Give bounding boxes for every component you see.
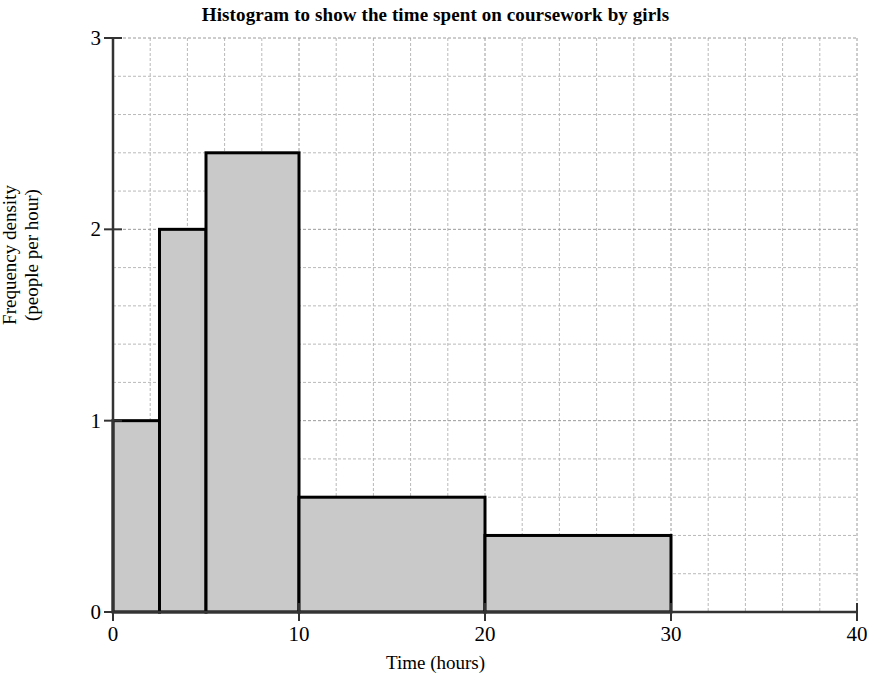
- y-tick-label: 0: [71, 600, 101, 625]
- x-tick-label: 20: [475, 622, 496, 647]
- histogram-bar: [113, 421, 160, 612]
- histogram-bar: [160, 229, 207, 612]
- x-tick-label: 40: [847, 622, 868, 647]
- x-tick-label: 30: [661, 622, 682, 647]
- histogram-bar: [299, 497, 485, 612]
- x-tick-label: 0: [108, 622, 119, 647]
- bars-group: [113, 153, 671, 612]
- y-tick-label: 2: [71, 217, 101, 242]
- histogram-bar: [206, 153, 299, 612]
- y-tick-label: 3: [71, 26, 101, 51]
- x-axis-title: Time (hours): [0, 652, 871, 674]
- histogram-bar: [485, 535, 671, 612]
- plot-area: [0, 0, 871, 688]
- x-tick-label: 10: [289, 622, 310, 647]
- histogram-chart: Histogram to show the time spent on cour…: [0, 0, 871, 688]
- y-tick-label: 1: [71, 408, 101, 433]
